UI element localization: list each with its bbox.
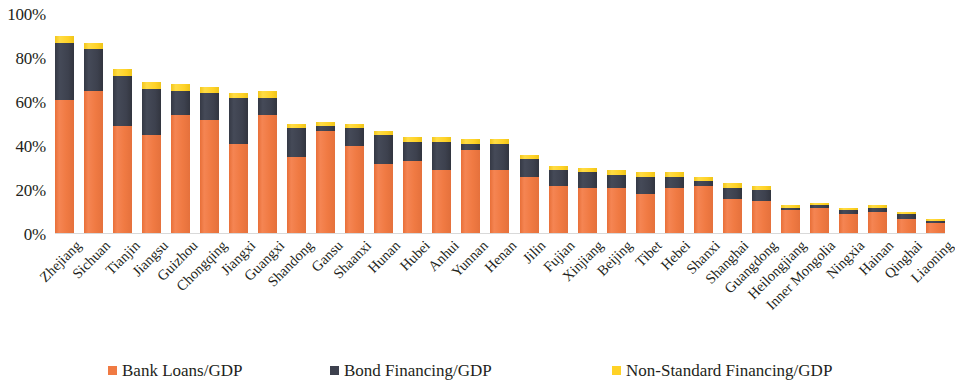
bar-segment-bond (607, 175, 626, 188)
bar-column[interactable] (926, 14, 945, 234)
bar-column[interactable] (490, 14, 509, 234)
bar-segment-bond (171, 91, 190, 115)
legend-item[interactable]: Bank Loans/GDP (108, 362, 242, 379)
bar-segment-bond (113, 76, 132, 127)
bar-column[interactable] (171, 14, 190, 234)
bar-column[interactable] (55, 14, 74, 234)
y-axis: 0%20%40%60%80%100% (0, 0, 52, 248)
bar-segment-nonstd (113, 69, 132, 76)
y-axis-tick-label: 40% (0, 138, 46, 155)
bar-segment-bond (461, 144, 480, 151)
bar-column[interactable] (258, 14, 277, 234)
bar-segment-bank (549, 186, 568, 234)
bar-column[interactable] (810, 14, 829, 234)
bar-segment-bank (868, 212, 887, 234)
bar-segment-bank (694, 186, 713, 234)
bar-column[interactable] (374, 14, 393, 234)
y-axis-tick-label: 100% (0, 6, 46, 23)
bar-segment-bond (84, 49, 103, 91)
bar-column[interactable] (607, 14, 626, 234)
bar-segment-nonstd (142, 82, 161, 89)
bar-segment-bond (665, 177, 684, 188)
bar-column[interactable] (229, 14, 248, 234)
bar-segment-bank (84, 91, 103, 234)
bar-segment-nonstd (200, 87, 219, 94)
legend-item-label: Bond Financing/GDP (344, 362, 492, 379)
y-axis-tick-label: 60% (0, 94, 46, 111)
bar-column[interactable] (723, 14, 742, 234)
legend-item[interactable]: Non-Standard Financing/GDP (612, 362, 832, 379)
y-axis-tick-label: 0% (0, 226, 46, 243)
bar-column[interactable] (345, 14, 364, 234)
bar-column[interactable] (694, 14, 713, 234)
bar-column[interactable] (432, 14, 451, 234)
bar-column[interactable] (578, 14, 597, 234)
bar-segment-bond (752, 190, 771, 201)
legend-swatch-non-standard-financing (612, 366, 621, 375)
x-axis-tick-label: Hubei (397, 238, 433, 274)
bar-column[interactable] (665, 14, 684, 234)
bar-segment-bond (258, 98, 277, 116)
bar-segment-bank (171, 115, 190, 234)
bar-segment-bond (549, 170, 568, 185)
bar-segment-bank (781, 210, 800, 234)
legend-item[interactable]: Bond Financing/GDP (330, 362, 492, 379)
bar-column[interactable] (113, 14, 132, 234)
bar-segment-bond (520, 159, 539, 177)
bar-column[interactable] (636, 14, 655, 234)
bar-segment-bank (810, 208, 829, 234)
bar-segment-bank (374, 164, 393, 234)
bar-column[interactable] (549, 14, 568, 234)
bar-segment-bank (665, 188, 684, 234)
bar-segment-bond (345, 128, 364, 146)
bar-segment-bond (287, 128, 306, 157)
bar-column[interactable] (287, 14, 306, 234)
bar-segment-bank (258, 115, 277, 234)
bar-column[interactable] (839, 14, 858, 234)
legend-swatch-bond-financing (330, 366, 339, 375)
bar-segment-nonstd (171, 84, 190, 91)
bar-column[interactable] (403, 14, 422, 234)
bar-column[interactable] (316, 14, 335, 234)
bar-segment-bank (839, 214, 858, 234)
bar-column[interactable] (868, 14, 887, 234)
bar-segment-bank (345, 146, 364, 234)
bar-segment-nonstd (258, 91, 277, 98)
bar-segment-bank (578, 188, 597, 234)
bar-segment-bank (897, 219, 916, 234)
bar-segment-bank (316, 131, 335, 234)
bar-column[interactable] (752, 14, 771, 234)
y-axis-tick-label: 20% (0, 182, 46, 199)
bar-segment-bank (142, 135, 161, 234)
bar-column[interactable] (142, 14, 161, 234)
bar-segment-bank (490, 170, 509, 234)
bar-segment-bank (200, 120, 219, 234)
bar-segment-bond (636, 177, 655, 195)
bar-segment-bank (607, 188, 626, 234)
bar-segment-bond (55, 43, 74, 100)
legend-item-label: Non-Standard Financing/GDP (626, 362, 832, 379)
legend-swatch-bank-loans (108, 366, 117, 375)
bar-segment-bank (55, 100, 74, 234)
legend-item-label: Bank Loans/GDP (122, 362, 242, 379)
bar-column[interactable] (897, 14, 916, 234)
bar-column[interactable] (461, 14, 480, 234)
chart-legend: Bank Loans/GDPBond Financing/GDPNon-Stan… (0, 358, 951, 382)
bar-column[interactable] (200, 14, 219, 234)
bar-column[interactable] (84, 14, 103, 234)
bar-segment-bond (432, 142, 451, 171)
bar-segment-bond (142, 89, 161, 135)
bar-segment-bond (229, 98, 248, 144)
bar-segment-bank (520, 177, 539, 234)
bar-segment-bank (636, 194, 655, 234)
x-axis-baseline (55, 233, 945, 234)
bar-column[interactable] (781, 14, 800, 234)
plot-area (55, 14, 945, 234)
x-axis-tick-label: Hunan (365, 238, 403, 276)
bar-segment-bond (403, 142, 422, 162)
bar-segment-bond (490, 144, 509, 170)
bar-segment-nonstd (55, 36, 74, 43)
bar-segment-bank (752, 201, 771, 234)
bar-column[interactable] (520, 14, 539, 234)
